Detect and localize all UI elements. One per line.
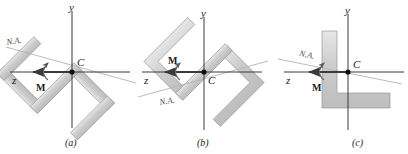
centroid-dot-a [69,69,74,74]
unsymmetric-bending-figure: y z C M N.A. (a) y z C M N.A. (b) [0,0,408,154]
centroid-label-a: C [77,56,85,68]
y-axis-label-a: y [68,1,74,13]
cross-section-a [0,30,114,147]
panel-b: y z C M N.A. (b) [138,7,268,149]
z-axis-label-b: z [143,74,149,86]
moment-label-c: M [312,82,322,93]
neutral-axis-label-b: N.A. [158,95,175,107]
moment-label-b: M [168,55,178,66]
centroid-label-b: C [208,74,216,86]
panel-caption-c: (c) [352,137,364,149]
centroid-dot-c [345,69,350,74]
panel-c: y z C M N.A. (c) [278,4,404,149]
panel-a: y z C M N.A. (a) [0,1,136,149]
y-axis-label-b: y [200,7,206,19]
centroid-dot-b [201,69,206,74]
y-axis-label-c: y [344,4,350,16]
z-axis-label-a: z [11,74,17,86]
panel-caption-b: (b) [197,137,209,149]
moment-label-a: M [36,82,46,93]
panel-caption-a: (a) [65,137,77,149]
neutral-axis-label-c: N.A. [298,48,316,61]
z-axis-label-c: z [285,74,291,86]
centroid-label-c: C [353,58,361,70]
neutral-axis-label-a: N.A. [5,35,22,47]
